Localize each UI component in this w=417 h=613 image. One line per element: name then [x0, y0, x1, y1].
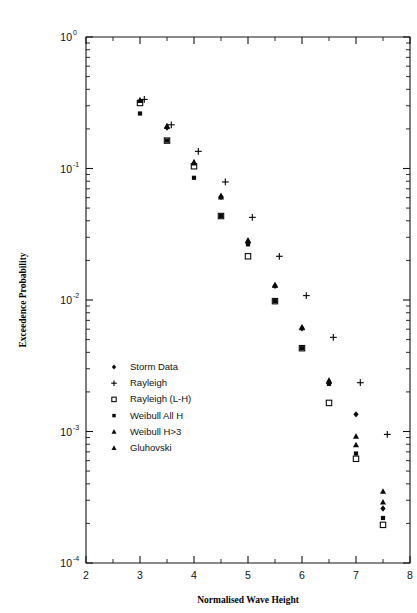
marker-square-open: [353, 456, 358, 461]
series-storm-data: [137, 98, 385, 512]
y-ticklabel: 10: [60, 31, 72, 43]
x-ticklabel: 7: [353, 569, 359, 581]
y-ticklabel: 10: [60, 163, 72, 175]
marker-square-small: [192, 176, 196, 180]
marker-square-open: [326, 400, 331, 405]
x-ticklabel: 4: [191, 569, 197, 581]
y-ticklabel-exponent: -1: [73, 161, 79, 168]
y-ticklabel: 10: [60, 426, 72, 438]
marker-square-open: [112, 397, 116, 401]
scatter-plot: 10010-110-210-310-4 2345678 Storm DataRa…: [0, 0, 417, 613]
y-ticklabel: 10: [60, 294, 72, 306]
y-ticklabel-exponent: -4: [73, 555, 79, 562]
marker-plus: [330, 334, 337, 341]
marker-square-small: [381, 516, 385, 520]
legend-label: Rayleigh: [130, 377, 167, 388]
y-axis-title: Exceedence Probability: [18, 252, 28, 347]
y-ticklabel: 10: [60, 557, 72, 569]
series-rayleigh-l-h-: [137, 100, 385, 527]
marker-plus: [249, 214, 256, 221]
legend-label: Weibull All H: [130, 410, 183, 421]
marker-square-open: [245, 254, 250, 259]
y-axis-ticks: [86, 37, 410, 563]
x-axis-ticklabels: 2345678: [83, 569, 413, 581]
y-ticklabel-exponent: 0: [73, 29, 77, 36]
marker-plus: [276, 253, 283, 260]
marker-square-small: [219, 214, 223, 218]
marker-triangle: [191, 160, 197, 166]
marker-triangle: [353, 433, 359, 439]
marker-triangle: [299, 324, 305, 330]
marker-square-small: [354, 451, 358, 455]
y-ticklabel-exponent: -3: [73, 424, 79, 431]
marker-plus: [384, 431, 391, 438]
marker-plus: [357, 379, 364, 386]
legend-label: Rayleigh (L-H): [130, 393, 191, 404]
marker-square-small: [165, 138, 169, 142]
x-ticklabel: 5: [245, 569, 251, 581]
series-gluhovski: [137, 97, 386, 504]
marker-triangle: [380, 488, 386, 494]
data-points: [137, 96, 391, 528]
marker-square-small: [138, 111, 142, 115]
x-ticklabel: 8: [407, 569, 413, 581]
x-ticklabel: 2: [83, 569, 89, 581]
axes-frame: [86, 37, 410, 563]
marker-triangle: [272, 282, 278, 288]
marker-triangle: [112, 445, 117, 450]
x-ticklabel: 3: [137, 569, 143, 581]
marker-triangle: [245, 238, 251, 244]
legend-label: Gluhovski: [130, 442, 172, 453]
marker-square-small: [273, 299, 277, 303]
marker-plus: [222, 179, 229, 186]
marker-plus: [111, 380, 117, 386]
legend-label: Weibull H>3: [130, 426, 181, 437]
marker-triangle: [353, 442, 359, 448]
series-weibull-all-h: [138, 111, 385, 520]
marker-square-small: [300, 346, 304, 350]
marker-diamond: [380, 505, 385, 511]
marker-plus: [303, 292, 310, 299]
figure-container: 10010-110-210-310-4 2345678 Storm DataRa…: [0, 0, 417, 613]
legend: Storm DataRayleighRayleigh (L-H)Weibull …: [111, 361, 191, 453]
y-axis-ticklabels: 10010-110-210-310-4: [60, 29, 79, 569]
marker-square-small: [112, 414, 115, 417]
marker-plus: [195, 148, 202, 155]
marker-square-open: [380, 522, 385, 527]
marker-diamond: [112, 364, 116, 369]
marker-triangle: [112, 429, 117, 434]
plot-frame: [86, 37, 410, 563]
y-ticklabel-exponent: -2: [73, 292, 79, 299]
x-ticklabel: 6: [299, 569, 305, 581]
x-axis-ticks: [86, 37, 410, 563]
marker-triangle: [380, 499, 386, 505]
x-axis-title: Normalised Wave Height: [197, 595, 300, 605]
legend-label: Storm Data: [130, 361, 179, 372]
marker-diamond: [353, 411, 358, 417]
series-rayleigh: [141, 96, 391, 438]
